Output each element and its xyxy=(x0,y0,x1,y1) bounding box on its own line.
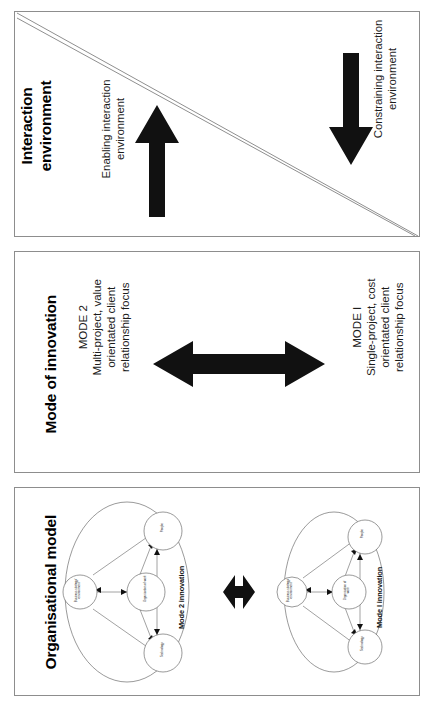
mode-2-block: MODE 2 Multi-project, value orientated c… xyxy=(76,251,133,422)
up-arrow-icon xyxy=(134,103,180,219)
enabling-line-1: Enabling interaction xyxy=(100,54,114,204)
panel-interaction-environment: Interaction environment Enabling interac… xyxy=(14,11,420,237)
mode-1-line-3: relationship focus xyxy=(392,251,406,422)
double-headed-arrow-icon xyxy=(151,339,327,389)
node-label-technology-right: Technology xyxy=(361,631,364,657)
mode-1-line-1: Single-project, cost xyxy=(364,251,378,422)
node-label-people-left: People xyxy=(161,513,164,543)
label-enabling-interaction-environment: Enabling interaction environment xyxy=(100,54,128,204)
node-label-people-right: People xyxy=(361,521,364,547)
caption-mode-1-innovation: Mode I innovation xyxy=(376,561,385,633)
node-label-organisation-of-work-left: Organisation of work xyxy=(144,574,147,604)
panel-title-mode-of-innovation: Mode of innovation xyxy=(42,269,60,459)
panel-mode-of-innovation: Mode of innovation MODE 2 Multi-project,… xyxy=(14,251,420,473)
caption-mode-2-innovation: Mode 2 innovation xyxy=(178,561,187,633)
node-label-business-strategy-right: Business strategy/ environment xyxy=(287,577,294,603)
panel-title-line-1: Interaction xyxy=(18,66,37,186)
constraining-line-1: Constraining interaction xyxy=(372,11,386,159)
small-double-headed-arrow-icon xyxy=(221,573,257,611)
panel-title-line-2: environment xyxy=(37,66,56,186)
node-label-technology-left: Technology xyxy=(161,635,164,665)
panel-title-interaction: Interaction environment xyxy=(18,66,56,186)
mode-1-line-2: orientated client xyxy=(378,251,392,422)
panel-organisational-model: Organisational model xyxy=(14,487,420,696)
mode-1-heading: MODE I xyxy=(350,251,364,422)
mode-2-line-1: Multi-project, value xyxy=(90,251,104,422)
down-arrow-icon xyxy=(328,51,374,167)
mode-2-line-2: orientated client xyxy=(104,251,118,422)
mode-2-heading: MODE 2 xyxy=(76,251,90,422)
label-constraining-interaction-environment: Constraining interaction environment xyxy=(372,11,400,159)
mode-1-block: MODE I Single-project, cost orientated c… xyxy=(350,251,407,422)
constraining-line-2: environment xyxy=(386,11,400,159)
enabling-line-2: environment xyxy=(114,54,128,204)
mode-2-line-3: relationship focus xyxy=(118,251,132,422)
node-label-business-strategy-left: Business strategy/ environment xyxy=(75,575,82,605)
node-label-organisation-of-work-right: Organisation of work xyxy=(344,577,351,603)
figure-root: Interaction environment Enabling interac… xyxy=(0,0,434,709)
